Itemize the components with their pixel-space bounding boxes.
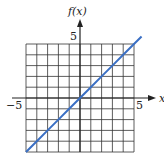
x-axis-arrow-icon <box>148 95 156 101</box>
y-max-tick-label: 5 <box>70 30 77 43</box>
graph: f(x) x −5 5 5 <box>0 0 164 153</box>
y-axis-arrow-icon <box>77 19 83 27</box>
x-max-tick-label: 5 <box>136 99 143 112</box>
function-line <box>26 36 142 152</box>
x-axis-label: x <box>159 92 164 105</box>
y-axis-label: f(x) <box>67 5 87 18</box>
x-min-tick-label: −5 <box>6 99 22 112</box>
